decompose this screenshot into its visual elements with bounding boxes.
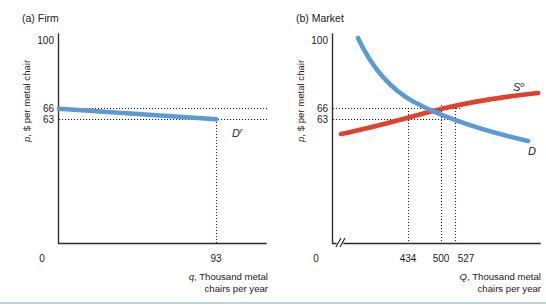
market-axes-left <box>333 34 337 244</box>
market-xtick-434: 434 <box>400 253 417 264</box>
market-ytick-100: 100 <box>311 35 328 46</box>
market-supply-label-sup: o <box>520 80 524 89</box>
figure-container: (a) Firm p, $ per metal chair 100 66 63 … <box>0 0 546 306</box>
firm-xtick-0: 0 <box>39 253 45 264</box>
firm-residual-demand-curve <box>59 109 217 119</box>
market-ytick-66: 66 <box>317 103 329 114</box>
firm-curve-label-sup: r <box>240 126 243 135</box>
market-y-rest: , $ per metal chair <box>295 59 306 137</box>
svg-text:p, $ per metal chair: p, $ per metal chair <box>295 59 306 143</box>
panel-market-y-axis-label: p, $ per metal chair <box>295 59 306 143</box>
firm-ytick-100: 100 <box>37 35 54 46</box>
firm-curve-label-residual-demand: Dr <box>232 126 243 139</box>
svg-text:Q, Thousand metal: Q, Thousand metal <box>460 271 541 282</box>
panel-market-title: (b) Market <box>296 12 344 24</box>
panel-market: (b) Market p, $ per metal chair 100 66 6… <box>295 12 542 294</box>
market-curve-label-demand: D <box>528 145 536 157</box>
market-xtick-527: 527 <box>458 253 475 264</box>
panel-firm-x-axis-label: q, Thousand metal chairs per year <box>189 271 269 294</box>
firm-ytick-66: 66 <box>43 103 55 114</box>
market-xtick-0: 0 <box>313 253 319 264</box>
svg-text:q, Thousand metal: q, Thousand metal <box>189 271 268 282</box>
firm-x-label-line2: chairs per year <box>205 283 269 294</box>
market-xtick-500: 500 <box>433 253 450 264</box>
panel-firm-y-axis-label: p, $ per metal chair <box>21 59 32 143</box>
market-curve-label-supply: So <box>513 80 525 93</box>
firm-xtick-93: 93 <box>210 253 222 264</box>
panel-market-x-axis-label: Q, Thousand metal chairs per year <box>460 271 542 294</box>
market-x-rest: , Thousand metal <box>467 271 541 282</box>
firm-curve-label-text: D <box>232 127 240 139</box>
firm-ytick-63: 63 <box>43 114 55 125</box>
panel-firm-title: (a) Firm <box>22 12 59 24</box>
firm-y-rest: , $ per metal chair <box>21 59 32 137</box>
market-x-label-line2: chairs per year <box>478 283 542 294</box>
market-ytick-63: 63 <box>317 114 329 125</box>
firm-x-rest: , Thousand metal <box>194 271 268 282</box>
panel-firm: (a) Firm p, $ per metal chair 100 66 63 … <box>21 12 269 294</box>
svg-text:p, $ per metal chair: p, $ per metal chair <box>21 59 32 143</box>
market-axis-break-icon <box>336 238 345 247</box>
